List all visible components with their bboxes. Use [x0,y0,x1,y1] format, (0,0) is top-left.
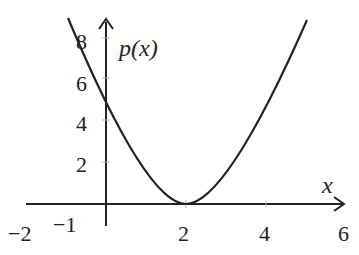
tick-marks [102,38,266,208]
y-tick-6: 6 [76,71,87,96]
y-tick-4: 4 [76,111,87,136]
x-axis-label: x [321,172,333,198]
x-tick-minus-1: −1 [53,212,76,237]
y-axis-label: p(x) [117,35,158,61]
x-tick-minus-2: −2 [8,221,31,246]
x-tick-6: 6 [338,221,349,246]
y-tick-2: 2 [76,152,87,177]
y-tick-8: 8 [76,29,87,54]
x-tick-2: 2 [178,221,189,246]
x-tick-4: 4 [259,221,270,246]
parabola-curve [68,18,307,204]
parabola-plot: 8 6 4 2 −2 −1 2 4 6 p(x) x [0,0,359,255]
